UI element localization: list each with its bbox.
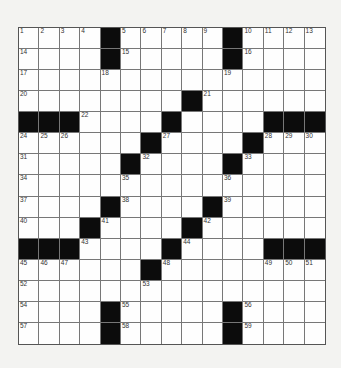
grid-cell[interactable]: 15 (121, 49, 141, 70)
grid-cell[interactable] (141, 112, 161, 133)
grid-cell[interactable]: 11 (264, 28, 284, 49)
grid-cell[interactable] (60, 218, 80, 239)
grid-cell[interactable] (101, 239, 121, 260)
grid-cell[interactable] (305, 91, 325, 112)
grid-cell[interactable] (243, 91, 263, 112)
grid-cell[interactable] (203, 323, 223, 344)
grid-cell[interactable]: 58 (121, 323, 141, 344)
grid-cell[interactable]: 39 (223, 197, 243, 218)
grid-cell[interactable]: 12 (284, 28, 304, 49)
grid-cell[interactable] (243, 112, 263, 133)
grid-cell[interactable] (39, 281, 59, 302)
grid-cell[interactable] (141, 49, 161, 70)
grid-cell[interactable] (121, 133, 141, 154)
grid-cell[interactable] (101, 133, 121, 154)
grid-cell[interactable]: 22 (80, 112, 100, 133)
grid-cell[interactable] (264, 70, 284, 91)
grid-cell[interactable] (203, 70, 223, 91)
grid-cell[interactable] (223, 281, 243, 302)
grid-cell[interactable] (162, 175, 182, 196)
grid-cell[interactable]: 10 (243, 28, 263, 49)
grid-cell[interactable] (305, 154, 325, 175)
grid-cell[interactable]: 43 (80, 239, 100, 260)
grid-cell[interactable] (162, 218, 182, 239)
grid-cell[interactable]: 54 (19, 302, 39, 323)
grid-cell[interactable]: 38 (121, 197, 141, 218)
grid-cell[interactable]: 25 (39, 133, 59, 154)
grid-cell[interactable]: 14 (19, 49, 39, 70)
grid-cell[interactable] (101, 112, 121, 133)
grid-cell[interactable] (182, 49, 202, 70)
grid-cell[interactable] (80, 197, 100, 218)
grid-cell[interactable]: 46 (39, 260, 59, 281)
grid-cell[interactable]: 32 (141, 154, 161, 175)
grid-cell[interactable] (182, 133, 202, 154)
grid-cell[interactable] (80, 49, 100, 70)
grid-cell[interactable] (243, 239, 263, 260)
grid-cell[interactable] (60, 197, 80, 218)
grid-cell[interactable] (60, 323, 80, 344)
grid-cell[interactable] (223, 133, 243, 154)
grid-cell[interactable]: 16 (243, 49, 263, 70)
grid-cell[interactable] (305, 70, 325, 91)
grid-cell[interactable] (141, 91, 161, 112)
grid-cell[interactable]: 41 (101, 218, 121, 239)
grid-cell[interactable]: 17 (19, 70, 39, 91)
grid-cell[interactable] (39, 49, 59, 70)
grid-cell[interactable] (264, 154, 284, 175)
grid-cell[interactable] (223, 239, 243, 260)
grid-cell[interactable]: 26 (60, 133, 80, 154)
grid-cell[interactable] (182, 281, 202, 302)
grid-cell[interactable] (203, 175, 223, 196)
grid-cell[interactable] (121, 239, 141, 260)
grid-cell[interactable] (305, 49, 325, 70)
grid-cell[interactable] (284, 218, 304, 239)
grid-cell[interactable] (80, 70, 100, 91)
grid-cell[interactable] (203, 281, 223, 302)
grid-cell[interactable]: 34 (19, 175, 39, 196)
grid-cell[interactable]: 47 (60, 260, 80, 281)
grid-cell[interactable] (284, 91, 304, 112)
grid-cell[interactable] (264, 302, 284, 323)
grid-cell[interactable]: 3 (60, 28, 80, 49)
grid-cell[interactable] (203, 112, 223, 133)
grid-cell[interactable] (60, 49, 80, 70)
grid-cell[interactable]: 6 (141, 28, 161, 49)
grid-cell[interactable] (162, 154, 182, 175)
grid-cell[interactable]: 56 (243, 302, 263, 323)
grid-cell[interactable] (223, 112, 243, 133)
grid-cell[interactable] (121, 260, 141, 281)
grid-cell[interactable] (223, 91, 243, 112)
grid-cell[interactable]: 13 (305, 28, 325, 49)
grid-cell[interactable] (162, 91, 182, 112)
grid-cell[interactable]: 50 (284, 260, 304, 281)
grid-cell[interactable]: 20 (19, 91, 39, 112)
grid-cell[interactable] (264, 91, 284, 112)
grid-cell[interactable] (80, 175, 100, 196)
grid-cell[interactable] (141, 323, 161, 344)
grid-cell[interactable]: 1 (19, 28, 39, 49)
grid-cell[interactable] (141, 239, 161, 260)
grid-cell[interactable] (243, 218, 263, 239)
grid-cell[interactable] (305, 281, 325, 302)
grid-cell[interactable] (203, 133, 223, 154)
grid-cell[interactable]: 59 (243, 323, 263, 344)
grid-cell[interactable] (182, 260, 202, 281)
grid-cell[interactable] (101, 281, 121, 302)
grid-cell[interactable] (121, 91, 141, 112)
grid-cell[interactable]: 48 (162, 260, 182, 281)
grid-cell[interactable] (101, 91, 121, 112)
grid-cell[interactable] (182, 154, 202, 175)
grid-cell[interactable] (284, 197, 304, 218)
grid-cell[interactable] (80, 323, 100, 344)
grid-cell[interactable] (203, 302, 223, 323)
grid-cell[interactable] (80, 302, 100, 323)
grid-cell[interactable]: 19 (223, 70, 243, 91)
grid-cell[interactable] (264, 281, 284, 302)
grid-cell[interactable] (182, 302, 202, 323)
grid-cell[interactable]: 28 (264, 133, 284, 154)
grid-cell[interactable] (284, 70, 304, 91)
grid-cell[interactable] (243, 197, 263, 218)
grid-cell[interactable] (284, 154, 304, 175)
grid-cell[interactable]: 51 (305, 260, 325, 281)
